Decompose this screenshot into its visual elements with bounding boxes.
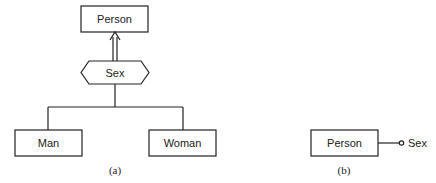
woman-label: Woman [164,137,202,149]
diagram-canvas: Person Sex Man Woman (a) Person Sex (b) [0,0,436,183]
person-label: Person [97,13,132,25]
sex-attribute-label: Sex [408,137,427,149]
diagram-a: Person Sex Man Woman (a) [15,6,216,177]
attribute-circle-icon [399,141,403,145]
isa-arrowhead-icon [110,32,120,40]
caption-a: (a) [109,164,122,177]
person-label-b: Person [327,137,362,149]
diagram-b: Person Sex (b) [311,130,427,177]
caption-b: (b) [338,164,351,177]
man-label: Man [38,137,59,149]
sex-discriminator-label: Sex [106,67,125,79]
